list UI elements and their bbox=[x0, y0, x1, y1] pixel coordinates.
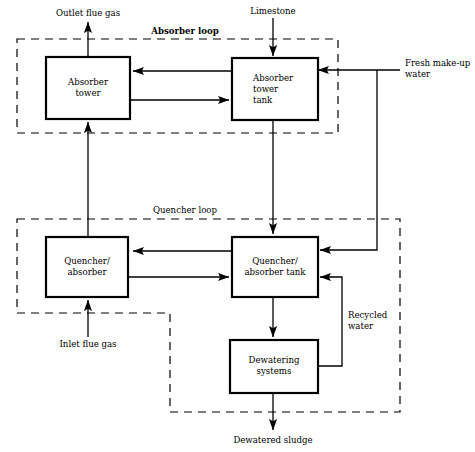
absorber-tower-label-line2: tower bbox=[75, 88, 101, 98]
fresh-makeup-water-label-line2: water bbox=[405, 69, 431, 79]
outlet-flue-gas-label: Outlet flue gas bbox=[56, 8, 120, 18]
absorber-tower-tank-label-line2: tower bbox=[253, 84, 279, 94]
quencher-absorber-label-line1: Quencher/ bbox=[64, 256, 110, 266]
absorber-tower-label-line1: Absorber bbox=[67, 77, 109, 87]
absorber-loop-label: Absorber loop bbox=[150, 26, 219, 36]
quencher-absorber-label-line2: absorber bbox=[67, 267, 107, 277]
quencher-absorber-tank-label-line1: Quencher/ bbox=[252, 256, 298, 266]
recycled-water-line bbox=[318, 277, 342, 366]
recycled-water-label-line1: Recycled bbox=[348, 310, 388, 320]
box-absorber-tower[interactable]: Absorber tower bbox=[46, 57, 130, 119]
inlet-flue-gas-label: Inlet flue gas bbox=[59, 339, 116, 349]
recycled-water-label-line2: water bbox=[348, 321, 374, 331]
dewatered-sludge-label: Dewatered sludge bbox=[233, 435, 312, 445]
box-quencher-absorber[interactable]: Quencher/ absorber bbox=[46, 237, 128, 297]
quencher-absorber-tank-label-line2: absorber tank bbox=[244, 267, 306, 277]
absorber-tower-tank-label-line1: Absorber bbox=[252, 73, 294, 83]
dewatering-systems-label-line1: Dewatering bbox=[249, 355, 300, 365]
absorber-tower-tank-label-line3: tank bbox=[253, 95, 273, 105]
box-dewatering-systems[interactable]: Dewatering systems bbox=[230, 340, 318, 393]
quencher-loop-label: Quencher loop bbox=[153, 205, 218, 215]
box-quencher-absorber-tank[interactable]: Quencher/ absorber tank bbox=[232, 237, 318, 297]
dewatering-systems-label-line2: systems bbox=[257, 366, 292, 376]
process-flow-diagram: Absorber tower Absorber tower tank Quenc… bbox=[0, 0, 475, 452]
box-absorber-tower-tank[interactable]: Absorber tower tank bbox=[232, 58, 318, 120]
limestone-label: Limestone bbox=[250, 6, 295, 16]
fresh-makeup-water-label-line1: Fresh make-up bbox=[405, 58, 471, 68]
fresh-makeup-water-to-quencher-tank-line bbox=[320, 70, 377, 250]
